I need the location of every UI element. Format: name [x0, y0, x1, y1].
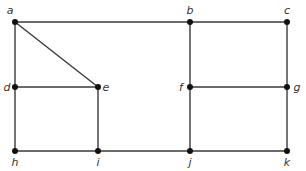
node-f: [187, 84, 193, 90]
node-label-a: a: [7, 4, 14, 17]
node-e: [95, 84, 101, 90]
node-label-c: c: [284, 4, 290, 17]
node-label-g: g: [294, 81, 301, 94]
node-h: [12, 148, 18, 154]
node-a: [12, 19, 18, 25]
edges-group: [15, 22, 287, 151]
node-d: [12, 84, 18, 90]
node-c: [284, 19, 290, 25]
node-j: [187, 148, 193, 154]
node-k: [284, 148, 290, 154]
node-g: [284, 84, 290, 90]
node-i: [95, 148, 101, 154]
node-label-i: i: [96, 156, 99, 169]
node-label-f: f: [179, 81, 185, 94]
graph-diagram: abcdefghijk: [0, 0, 306, 171]
node-label-e: e: [103, 81, 110, 94]
node-label-d: d: [4, 81, 12, 94]
node-label-j: j: [186, 156, 192, 169]
edge-a-e: [15, 22, 98, 87]
node-label-k: k: [284, 156, 291, 169]
node-label-h: h: [12, 156, 19, 169]
node-label-b: b: [187, 4, 194, 17]
node-b: [187, 19, 193, 25]
